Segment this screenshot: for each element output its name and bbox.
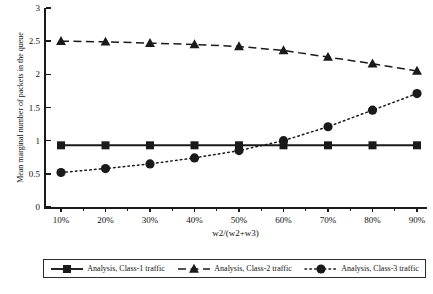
square-marker — [63, 265, 71, 273]
circle-marker — [56, 168, 65, 177]
series-2 — [56, 36, 422, 75]
y-tick-label: 0.5 — [18, 169, 40, 178]
circle-marker — [368, 106, 377, 115]
y-tick-label: 3 — [18, 4, 40, 13]
plot-area: 00.511.522.53 10%20%30%40%50%60%70%80%90… — [44, 8, 427, 207]
legend-entry-3: Analysis, Class-3 traffic — [304, 263, 418, 275]
circle-marker — [279, 136, 288, 145]
square-marker — [191, 141, 199, 149]
chart-legend: Analysis, Class-1 trafficAnalysis, Class… — [43, 259, 426, 278]
x-axis-labels: 10%20%30%40%50%60%70%80%90% — [44, 207, 427, 227]
legend-entry-2: Analysis, Class-2 traffic — [177, 263, 291, 275]
circle-marker — [101, 164, 110, 173]
circle-marker — [323, 122, 332, 131]
x-axis-title: w2/(w2+w3) — [44, 228, 427, 238]
square-marker — [369, 141, 377, 149]
triangle-marker — [234, 41, 244, 50]
y-tick-label: 2 — [18, 70, 40, 79]
x-tick-label: 40% — [186, 216, 203, 225]
series-layer — [44, 8, 427, 207]
legend-sample-triangle — [177, 263, 211, 275]
square-marker — [57, 141, 65, 149]
x-tick-label: 90% — [409, 216, 426, 225]
y-tick-label: 1.5 — [18, 103, 40, 112]
y-tick-label: 1 — [18, 136, 40, 145]
x-tick-label: 20% — [97, 216, 114, 225]
legend-entry-1: Analysis, Class-1 traffic — [50, 263, 164, 275]
circle-marker — [190, 153, 199, 162]
circle-marker — [145, 159, 154, 168]
x-tick-label: 70% — [320, 216, 337, 225]
legend-sample-square — [50, 263, 84, 275]
square-marker — [146, 141, 154, 149]
square-marker — [102, 141, 110, 149]
x-tick-label: 10% — [53, 216, 70, 225]
x-tick-label: 30% — [142, 216, 159, 225]
legend-label: Analysis, Class-3 traffic — [341, 265, 418, 273]
square-marker — [324, 141, 332, 149]
series-3 — [56, 89, 421, 177]
legend-label: Analysis, Class-1 traffic — [87, 265, 164, 273]
circle-marker — [412, 89, 421, 98]
triangle-marker — [145, 38, 155, 47]
circle-marker — [234, 146, 243, 155]
figure: Mean marginal number of packets in the q… — [0, 0, 433, 294]
triangle-marker — [56, 36, 66, 45]
y-tick-label: 2.5 — [18, 37, 40, 46]
circle-marker — [317, 264, 326, 273]
legend-label: Analysis, Class-2 traffic — [214, 265, 291, 273]
x-tick-label: 50% — [231, 216, 248, 225]
x-tick-label: 80% — [364, 216, 381, 225]
x-tick-label: 60% — [275, 216, 292, 225]
square-marker — [413, 141, 421, 149]
y-tick-label: 0 — [18, 203, 40, 212]
legend-sample-circle — [304, 263, 338, 275]
series-line — [61, 94, 417, 173]
triangle-marker — [368, 59, 378, 68]
